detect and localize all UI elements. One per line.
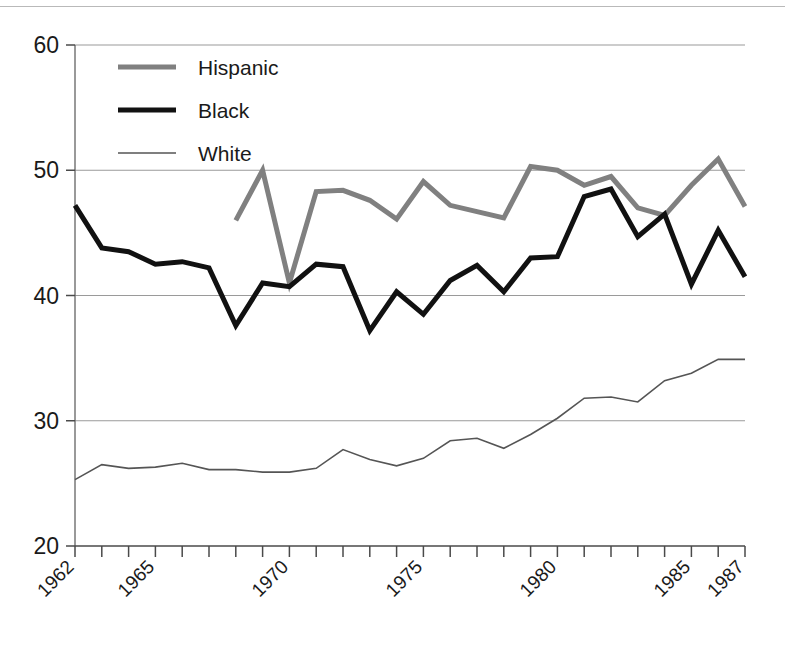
legend-item-white[interactable]: White [118,142,252,165]
x-axis-label-1962: 1962 [33,556,78,601]
x-axis-label-group-1980: 1980 [515,556,560,601]
chart-legend: HispanicBlackWhite [118,56,279,165]
x-axis-label-group-1970: 1970 [247,556,292,601]
x-axis-ticks [75,546,745,557]
x-axis-label-group-1975: 1975 [381,556,426,601]
legend-label-white: White [198,142,252,165]
legend-label-black: Black [198,99,250,122]
chart-svg: 6050403020 1962196519701975198019851987 … [0,0,785,650]
y-axis-label-40: 40 [33,283,59,309]
y-axis-tick-labels: 6050403020 [33,32,59,559]
y-axis-label-30: 30 [33,408,59,434]
y-axis-label-50: 50 [33,157,59,183]
data-series [75,159,745,480]
x-axis-label-1987: 1987 [703,556,748,601]
chart-page: 6050403020 1962196519701975198019851987 … [0,0,785,650]
x-axis-label-group-1985: 1985 [649,556,694,601]
series-line-white [75,359,745,479]
legend-label-hispanic: Hispanic [198,56,279,79]
y-axis-label-60: 60 [33,32,59,58]
x-axis-label-group-1962: 1962 [33,556,78,601]
x-axis-label-1970: 1970 [247,556,292,601]
line-chart: 6050403020 1962196519701975198019851987 … [0,0,785,650]
x-axis-label-group-1987: 1987 [703,556,748,601]
x-axis-label-1975: 1975 [381,556,426,601]
legend-item-hispanic[interactable]: Hispanic [118,56,279,79]
y-axis-label-20: 20 [33,533,59,559]
x-axis-label-1980: 1980 [515,556,560,601]
legend-item-black[interactable]: Black [118,99,250,122]
x-axis-label-group-1965: 1965 [113,556,158,601]
x-axis-label-1985: 1985 [649,556,694,601]
x-axis-tick-labels: 1962196519701975198019851987 [33,556,748,601]
x-axis-label-1965: 1965 [113,556,158,601]
